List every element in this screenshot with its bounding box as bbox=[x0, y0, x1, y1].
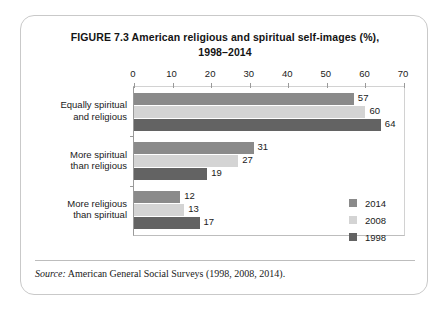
x-tick-label-20: 20 bbox=[205, 68, 216, 79]
x-tick-label-30: 30 bbox=[243, 68, 254, 79]
x-tick-label-60: 60 bbox=[359, 68, 370, 79]
legend-swatch-icon bbox=[349, 233, 357, 241]
figure-card: FIGURE 7.3 American religious and spirit… bbox=[20, 15, 428, 295]
x-axis-tick-70 bbox=[404, 83, 405, 88]
legend-swatch-icon bbox=[349, 216, 357, 224]
bar-row: 57 bbox=[134, 93, 404, 105]
bar-value-label: 60 bbox=[369, 105, 380, 116]
bar-2014-2[interactable] bbox=[134, 142, 254, 154]
figure-title-line-1: FIGURE 7.3 American religious and spirit… bbox=[39, 30, 411, 45]
bar-value-label: 12 bbox=[184, 190, 195, 201]
source-note: Source: American General Social Surveys … bbox=[35, 268, 415, 279]
bar-group: 312719 bbox=[134, 142, 404, 181]
bar-1998-3[interactable] bbox=[134, 217, 200, 229]
category-label-line: Equally spiritual bbox=[35, 99, 127, 111]
category-label-line: More religious bbox=[35, 198, 127, 210]
x-axis-tick-60 bbox=[365, 83, 366, 88]
bar-value-label: 13 bbox=[188, 203, 199, 214]
x-axis-tick-20 bbox=[211, 83, 212, 88]
legend-item-2008[interactable]: 2008 bbox=[349, 213, 419, 227]
bar-value-label: 27 bbox=[242, 154, 253, 165]
bar-2014-3[interactable] bbox=[134, 191, 180, 203]
legend-item-2014[interactable]: 2014 bbox=[349, 196, 419, 210]
figure-title: FIGURE 7.3 American religious and spirit… bbox=[39, 30, 411, 60]
category-label-line: More spiritual bbox=[35, 149, 127, 161]
bar-value-label: 17 bbox=[204, 216, 215, 227]
x-tick-label-0: 0 bbox=[130, 68, 135, 79]
bar-value-label: 57 bbox=[358, 92, 369, 103]
x-axis-tick-labels: 010203040506070 bbox=[133, 68, 411, 84]
bar-value-label: 19 bbox=[211, 167, 222, 178]
legend-swatch-icon bbox=[349, 199, 357, 207]
bar-row: 27 bbox=[134, 155, 404, 167]
bar-2008-3[interactable] bbox=[134, 204, 184, 216]
bar-value-label: 64 bbox=[385, 118, 396, 129]
legend-label: 1998 bbox=[365, 232, 386, 243]
chart-area: 010203040506070 Equally spiritualand rel… bbox=[31, 68, 419, 248]
source-text: American General Social Surveys (1998, 2… bbox=[68, 268, 285, 279]
x-tick-label-10: 10 bbox=[166, 68, 177, 79]
figure-title-line-2: 1998–2014 bbox=[39, 45, 411, 60]
bar-row: 19 bbox=[134, 168, 404, 180]
category-label-line: than spiritual bbox=[35, 209, 127, 221]
bar-value-label: 31 bbox=[258, 141, 269, 152]
x-axis-tick-50 bbox=[327, 83, 328, 88]
x-axis-tick-0 bbox=[134, 83, 135, 88]
bar-2014-1[interactable] bbox=[134, 93, 354, 105]
x-axis-tick-10 bbox=[173, 83, 174, 88]
category-label-line: than religious bbox=[35, 160, 127, 172]
bar-row: 60 bbox=[134, 106, 404, 118]
bar-group: 576064 bbox=[134, 93, 404, 132]
category-label-line: and religious bbox=[35, 111, 127, 123]
bar-1998-2[interactable] bbox=[134, 168, 207, 180]
category-label-3: More religiousthan spiritual bbox=[35, 198, 127, 221]
bar-1998-1[interactable] bbox=[134, 119, 381, 131]
category-axis-tick bbox=[130, 136, 134, 137]
category-axis-tick bbox=[130, 186, 134, 187]
x-axis-tick-40 bbox=[288, 83, 289, 88]
x-axis-tick-30 bbox=[250, 83, 251, 88]
category-label-1: Equally spiritualand religious bbox=[35, 99, 127, 122]
bar-row: 31 bbox=[134, 142, 404, 154]
x-tick-label-40: 40 bbox=[282, 68, 293, 79]
source-label: Source: bbox=[35, 268, 66, 279]
category-label-2: More spiritualthan religious bbox=[35, 149, 127, 172]
legend-label: 2014 bbox=[365, 198, 386, 209]
bar-2008-1[interactable] bbox=[134, 106, 365, 118]
legend-item-1998[interactable]: 1998 bbox=[349, 230, 419, 244]
category-axis-labels: Equally spiritualand religiousMore spiri… bbox=[31, 86, 127, 234]
bar-2008-2[interactable] bbox=[134, 155, 238, 167]
chart-legend: 201420081998 bbox=[349, 196, 419, 247]
bar-row: 64 bbox=[134, 119, 404, 131]
x-tick-label-50: 50 bbox=[321, 68, 332, 79]
source-divider bbox=[35, 260, 415, 261]
x-tick-label-70: 70 bbox=[398, 68, 409, 79]
legend-label: 2008 bbox=[365, 215, 386, 226]
